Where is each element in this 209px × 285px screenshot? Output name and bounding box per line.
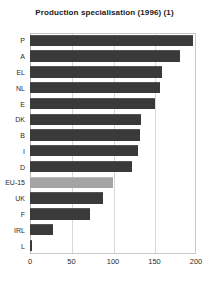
bar-row bbox=[30, 238, 196, 254]
x-axis-tick-label: 0 bbox=[28, 257, 32, 266]
bar-p bbox=[30, 35, 193, 46]
y-axis-tick-label: L bbox=[0, 238, 27, 254]
bar-row bbox=[30, 207, 196, 223]
bar-uk bbox=[30, 192, 103, 203]
y-axis-tick-label: P bbox=[0, 33, 27, 49]
bar-row bbox=[30, 96, 196, 112]
y-axis-tick-label: A bbox=[0, 49, 27, 65]
bar-row bbox=[30, 143, 196, 159]
bar-dk bbox=[30, 114, 141, 125]
x-axis-tick-label: 200 bbox=[190, 257, 203, 266]
bar-row bbox=[30, 128, 196, 144]
bar-a bbox=[30, 50, 180, 61]
y-axis-tick-label: D bbox=[0, 159, 27, 175]
y-axis-tick-label: E bbox=[0, 96, 27, 112]
x-axis-labels: 050100150200 bbox=[0, 257, 209, 271]
bar-l bbox=[30, 240, 32, 251]
bar-row bbox=[30, 65, 196, 81]
y-axis-labels: P A EL NL E DK B I D EU-15 UK F IRL L bbox=[0, 33, 27, 254]
bar-row bbox=[30, 112, 196, 128]
bar-row bbox=[30, 80, 196, 96]
bar-row bbox=[30, 49, 196, 65]
y-axis-tick-label: F bbox=[0, 207, 27, 223]
bar-b bbox=[30, 129, 140, 140]
bar-row bbox=[30, 159, 196, 175]
y-axis-tick-label: IRL bbox=[0, 222, 27, 238]
bar-irl bbox=[30, 224, 53, 235]
bar-row bbox=[30, 222, 196, 238]
bar-d bbox=[30, 161, 132, 172]
y-axis-tick-label: DK bbox=[0, 112, 27, 128]
bars-layer bbox=[30, 33, 196, 254]
bar-eu-15 bbox=[30, 177, 113, 188]
y-axis-tick-label: EU-15 bbox=[0, 175, 27, 191]
y-axis-tick-label: UK bbox=[0, 191, 27, 207]
y-axis-tick-label: I bbox=[0, 143, 27, 159]
bar-row bbox=[30, 33, 196, 49]
y-axis-tick-label: EL bbox=[0, 65, 27, 81]
bar-row bbox=[30, 175, 196, 191]
x-axis-tick-label: 50 bbox=[67, 257, 75, 266]
chart-container: Production specialisation (1996) (1) P A… bbox=[0, 0, 209, 285]
y-axis-tick-label: NL bbox=[0, 80, 27, 96]
chart-title: Production specialisation (1996) (1) bbox=[0, 8, 209, 18]
bar-el bbox=[30, 66, 162, 77]
bar-nl bbox=[30, 82, 160, 93]
x-axis-tick-label: 100 bbox=[107, 257, 120, 266]
bar-e bbox=[30, 98, 155, 109]
bar-row bbox=[30, 191, 196, 207]
bar-f bbox=[30, 208, 90, 219]
x-axis-tick-label: 150 bbox=[148, 257, 161, 266]
bar-i bbox=[30, 145, 138, 156]
y-axis-tick-label: B bbox=[0, 128, 27, 144]
